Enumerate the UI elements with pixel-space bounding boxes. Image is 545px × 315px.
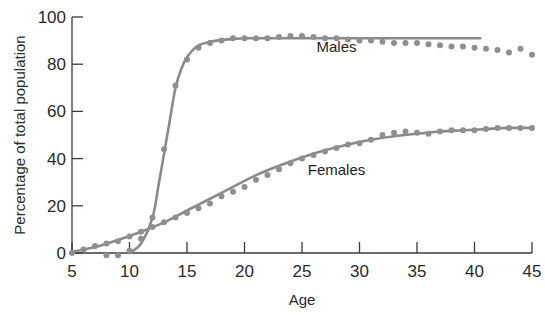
y-tick-label: 80 xyxy=(47,55,66,74)
males-data-point xyxy=(460,44,466,50)
x-axis-title: Age xyxy=(289,291,316,308)
females-data-point xyxy=(311,152,317,158)
females-data-point xyxy=(161,219,167,225)
females-data-point xyxy=(483,126,489,132)
x-tick-label: 10 xyxy=(120,262,139,281)
y-tick-label: 20 xyxy=(47,197,66,216)
y-tick-label: 60 xyxy=(47,102,66,121)
males-data-point xyxy=(426,41,432,47)
males-data-point xyxy=(253,35,259,41)
males-data-point xyxy=(173,82,179,88)
females-data-point xyxy=(368,137,374,143)
females-data-point xyxy=(150,224,156,230)
females-data-point xyxy=(460,127,466,133)
males-data-point xyxy=(230,35,236,41)
females-data-point xyxy=(242,184,248,190)
series-males: Males xyxy=(104,33,536,258)
males-data-point xyxy=(391,40,397,46)
females-data-point xyxy=(196,205,202,211)
females-data-point xyxy=(253,177,259,183)
males-data-point xyxy=(518,46,524,52)
females-data-point xyxy=(322,149,328,155)
males-data-point xyxy=(104,252,110,258)
males-data-point xyxy=(368,38,374,44)
males-data-point xyxy=(437,42,443,48)
x-tick-label: 25 xyxy=(293,262,312,281)
females-data-point xyxy=(127,233,133,239)
males-data-point xyxy=(495,47,501,53)
males-data-point xyxy=(380,39,386,45)
x-tick-label: 15 xyxy=(178,262,197,281)
females-data-point xyxy=(104,241,110,247)
females-data-point xyxy=(173,215,179,221)
females-data-point xyxy=(81,246,87,252)
females-data-point xyxy=(207,200,213,206)
females-data-point xyxy=(449,127,455,133)
males-data-point xyxy=(242,35,248,41)
series-label-males: Males xyxy=(316,38,356,55)
y-tick-label: 100 xyxy=(38,8,66,27)
females-data-point xyxy=(276,166,282,172)
females-data-point xyxy=(69,250,75,256)
females-data-point xyxy=(357,140,363,146)
females-data-point xyxy=(230,189,236,195)
x-tick-label: 40 xyxy=(465,262,484,281)
females-data-point xyxy=(414,130,420,136)
males-data-point xyxy=(265,35,271,41)
females-data-point xyxy=(334,145,340,151)
males-data-point xyxy=(150,215,156,221)
males-data-point xyxy=(506,49,512,55)
males-data-point xyxy=(196,45,202,51)
females-data-point xyxy=(495,125,501,131)
series-females: Females xyxy=(69,125,535,256)
males-data-point xyxy=(357,38,363,44)
males-data-point xyxy=(161,146,167,152)
females-data-point xyxy=(345,141,351,147)
males-data-point xyxy=(414,40,420,46)
females-data-point xyxy=(472,127,478,133)
males-data-point xyxy=(219,38,225,44)
y-tick-label: 0 xyxy=(57,244,66,263)
axes: 02040608010051015202530354045 xyxy=(38,8,542,281)
males-data-point xyxy=(299,33,305,39)
males-data-point xyxy=(483,46,489,52)
chart: 02040608010051015202530354045 MalesFemal… xyxy=(0,0,545,315)
females-data-point xyxy=(518,125,524,131)
females-data-point xyxy=(437,128,443,134)
males-data-point xyxy=(529,52,535,58)
x-tick-label: 30 xyxy=(350,262,369,281)
x-tick-label: 45 xyxy=(523,262,542,281)
males-data-point xyxy=(472,45,478,51)
males-data-point xyxy=(449,44,455,50)
males-data-point xyxy=(288,33,294,39)
y-axis-title: Percentage of total population xyxy=(11,35,28,234)
females-data-point xyxy=(219,193,225,199)
males-data-point xyxy=(276,34,282,40)
x-tick-label: 35 xyxy=(408,262,427,281)
females-data-point xyxy=(184,210,190,216)
x-tick-label: 5 xyxy=(67,262,76,281)
x-tick-label: 20 xyxy=(235,262,254,281)
males-data-point xyxy=(184,56,190,62)
females-data-point xyxy=(288,160,294,166)
series-layer: MalesFemales xyxy=(69,33,535,258)
females-data-point xyxy=(426,131,432,137)
females-data-point xyxy=(92,243,98,249)
females-data-point xyxy=(138,229,144,235)
females-data-point xyxy=(391,130,397,136)
males-data-point xyxy=(207,40,213,46)
females-data-point xyxy=(403,128,409,134)
females-data-point xyxy=(265,172,271,178)
females-data-point xyxy=(115,238,121,244)
y-tick-label: 40 xyxy=(47,150,66,169)
females-data-point xyxy=(506,125,512,131)
males-data-point xyxy=(138,236,144,242)
males-data-point xyxy=(403,40,409,46)
series-label-females: Females xyxy=(308,161,366,178)
males-data-point xyxy=(115,252,121,258)
males-data-point xyxy=(127,248,133,254)
females-data-point xyxy=(529,125,535,131)
females-data-point xyxy=(380,132,386,138)
females-data-point xyxy=(299,156,305,162)
males-fitted-curve xyxy=(130,38,481,253)
